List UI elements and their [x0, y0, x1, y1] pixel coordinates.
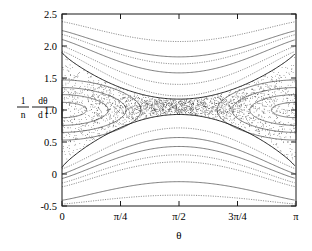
- chaotic-point: [245, 128, 246, 129]
- chaotic-point: [99, 136, 100, 137]
- chaotic-point: [126, 111, 127, 112]
- chaotic-point: [147, 107, 148, 108]
- chaotic-point: [89, 116, 90, 117]
- chaotic-point: [74, 75, 75, 76]
- chaotic-point: [91, 109, 92, 110]
- chaotic-point: [67, 128, 68, 129]
- chaotic-point: [123, 113, 124, 114]
- chaotic-point: [285, 77, 286, 78]
- chaotic-point: [155, 108, 156, 109]
- chaotic-point: [205, 114, 206, 115]
- chaotic-point: [113, 96, 114, 97]
- chaotic-point: [219, 103, 220, 104]
- chaotic-point: [229, 112, 230, 113]
- chaotic-point: [223, 116, 224, 117]
- chaotic-point: [112, 96, 113, 97]
- chaotic-point: [222, 108, 223, 109]
- chaotic-point: [258, 86, 259, 87]
- chaotic-point: [223, 119, 224, 120]
- chaotic-point: [101, 129, 102, 130]
- chaotic-point: [261, 80, 262, 81]
- chaotic-point: [139, 111, 140, 112]
- chaotic-point: [217, 111, 218, 112]
- chaotic-point: [186, 107, 187, 108]
- chaotic-point: [156, 105, 157, 106]
- chaotic-point: [147, 118, 148, 119]
- chaotic-point: [72, 122, 73, 123]
- chaotic-point: [284, 155, 285, 156]
- chaotic-point: [184, 108, 185, 109]
- chaotic-point: [129, 105, 130, 106]
- chaotic-point: [203, 103, 204, 104]
- chaotic-point: [283, 99, 284, 100]
- chaotic-point: [82, 114, 83, 115]
- chaotic-point: [70, 141, 71, 142]
- chaotic-point: [125, 101, 126, 102]
- chaotic-point: [226, 109, 227, 110]
- chaotic-point: [242, 116, 243, 117]
- chaotic-point: [110, 117, 111, 118]
- chaotic-point: [126, 101, 127, 102]
- chaotic-point: [88, 73, 89, 74]
- chaotic-point: [202, 108, 203, 109]
- chaotic-point: [223, 116, 224, 117]
- chaotic-point: [126, 113, 127, 114]
- chaotic-point: [246, 107, 247, 108]
- chaotic-point: [265, 101, 266, 102]
- chaotic-point: [216, 117, 217, 118]
- chaotic-point: [245, 116, 246, 117]
- chaotic-point: [225, 110, 226, 111]
- chaotic-point: [266, 86, 267, 87]
- chaotic-point: [145, 105, 146, 106]
- chaotic-point: [101, 86, 102, 87]
- chaotic-point: [263, 112, 264, 113]
- chaotic-point: [215, 114, 216, 115]
- chaotic-point: [87, 111, 88, 112]
- chaotic-point: [172, 99, 173, 100]
- chaotic-point: [246, 117, 247, 118]
- chaotic-point: [165, 106, 166, 107]
- chaotic-point: [233, 96, 234, 97]
- chaotic-point: [82, 132, 83, 133]
- chaotic-point: [272, 81, 273, 82]
- chaotic-point: [162, 110, 163, 111]
- chaotic-point: [205, 112, 206, 113]
- chaotic-point: [238, 100, 239, 101]
- chaotic-point: [77, 77, 78, 78]
- chaotic-point: [287, 116, 288, 117]
- chaotic-point: [135, 120, 136, 121]
- chaotic-point: [137, 106, 138, 107]
- chaotic-point: [170, 100, 171, 101]
- chaotic-point: [231, 114, 232, 115]
- chaotic-point: [105, 83, 106, 84]
- chaotic-point: [203, 100, 204, 101]
- chaotic-point: [261, 88, 262, 89]
- chaotic-point: [249, 112, 250, 113]
- chaotic-point: [286, 89, 287, 90]
- chaotic-point: [205, 103, 206, 104]
- chaotic-point: [187, 99, 188, 100]
- chaotic-point: [92, 101, 93, 102]
- chaotic-point: [73, 93, 74, 94]
- chaotic-point: [220, 100, 221, 101]
- chaotic-point: [139, 98, 140, 99]
- chaotic-point: [233, 112, 234, 113]
- chaotic-point: [79, 121, 80, 122]
- chaotic-point: [236, 104, 237, 105]
- chaotic-point: [274, 104, 275, 105]
- chaotic-point: [197, 100, 198, 101]
- chaotic-point: [162, 108, 163, 109]
- chaotic-point: [196, 111, 197, 112]
- chaotic-point: [124, 97, 125, 98]
- chaotic-point: [140, 116, 141, 117]
- chaotic-point: [252, 123, 253, 124]
- chaotic-point: [195, 115, 196, 116]
- chaotic-point: [99, 95, 100, 96]
- chaotic-point: [83, 130, 84, 131]
- chaotic-point: [236, 116, 237, 117]
- chaotic-point: [120, 123, 121, 124]
- chaotic-point: [252, 107, 253, 108]
- chaotic-point: [129, 114, 130, 115]
- chaotic-point: [110, 106, 111, 107]
- chaotic-point: [258, 82, 259, 83]
